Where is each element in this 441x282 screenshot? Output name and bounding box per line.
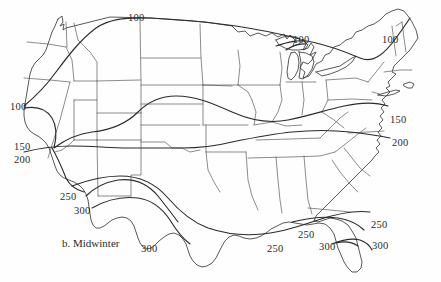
state-line-sd-mn-ia — [201, 58, 203, 85]
contour-300-gulf-tick — [336, 242, 358, 246]
state-line-mo-il — [252, 100, 256, 125]
state-line-la-ms — [246, 152, 258, 210]
state-line-me-nh-north — [396, 22, 402, 26]
contour-label-300-atlantic: 300 — [372, 241, 388, 252]
contour-label-100-montana: 100 — [128, 13, 144, 24]
contour-250-main — [72, 176, 370, 235]
contour-label-200-california: 200 — [14, 155, 30, 166]
state-line-al-ga — [304, 156, 312, 214]
contour-label-250-socal: 250 — [60, 192, 76, 203]
state-line-ky-tn — [256, 138, 320, 140]
contour-label-300-arizona: 300 — [74, 206, 90, 217]
state-line-tx-la — [206, 152, 220, 192]
contour-label-300-panhandle: 300 — [319, 242, 335, 253]
contour-label-250-atlantic: 250 — [371, 220, 387, 231]
state-line-mn-wi — [238, 50, 240, 85]
state-line-il-in — [272, 85, 282, 122]
state-line-ms-al — [276, 157, 282, 213]
state-line-pa-ny — [326, 78, 368, 82]
state-line-ok-tx — [141, 142, 200, 152]
state-line-wi-mi — [280, 52, 282, 85]
state-line-il-ky — [254, 122, 302, 126]
state-line-ia-il — [238, 85, 252, 100]
lake-michigan-huron-outline — [287, 52, 299, 80]
state-line-wa-id — [66, 22, 67, 47]
state-line-nc-sc — [344, 148, 370, 176]
contour-300-west — [86, 180, 178, 222]
contour-label-100-california: 100 — [10, 102, 26, 113]
figure-caption: b. Midwinter — [62, 238, 119, 249]
state-line-mt-wy — [97, 80, 140, 81]
contour-label-250-louisiana: 250 — [267, 244, 283, 255]
contour-label-150-newjersey: 150 — [390, 115, 406, 126]
state-line-ky-va — [320, 112, 348, 138]
state-line-nd-mn — [200, 24, 201, 58]
state-line-va-wv — [322, 112, 344, 128]
state-line-tn-ms-al-ga — [248, 152, 335, 158]
state-line-mt-nd — [140, 20, 141, 80]
state-line-id-mt — [74, 23, 97, 81]
national-outline — [24, 9, 418, 272]
state-line-or-ca — [24, 78, 70, 82]
state-line-or-id — [66, 47, 74, 81]
lake-erie-ontario-outline — [316, 56, 356, 76]
state-line-nj-ny — [372, 92, 380, 94]
contour-label-150-california: 150 — [14, 142, 30, 153]
state-line-pa-md — [328, 99, 372, 100]
contour-label-200-chesapeake: 200 — [392, 138, 408, 149]
state-boundaries — [24, 20, 412, 214]
state-line-oh-wv-pa — [322, 80, 328, 112]
state-line-ny-ne — [368, 62, 384, 82]
state-line-id-wy-ut — [74, 81, 97, 100]
contour-label-100-maine: 100 — [382, 35, 398, 46]
contour-label-100-michigan: 100 — [293, 35, 309, 46]
state-line-wa-or — [27, 42, 66, 47]
state-line-ma-ct-ri — [384, 70, 412, 72]
contour-label-250-alabama: 250 — [298, 230, 314, 241]
contour-200 — [24, 131, 390, 153]
northeast-coastal-detail — [378, 82, 414, 96]
contour-label-300-texas: 300 — [141, 244, 157, 255]
cape-cod-outline — [404, 82, 414, 88]
state-line-in-oh — [302, 82, 304, 115]
us-coastline-outline — [24, 9, 418, 272]
contour-map-figure: 100 100 100 100 150 200 150 200 250 300 … — [0, 0, 441, 282]
contour-100-northwest — [24, 18, 300, 106]
state-line-ga-fl — [308, 208, 350, 212]
